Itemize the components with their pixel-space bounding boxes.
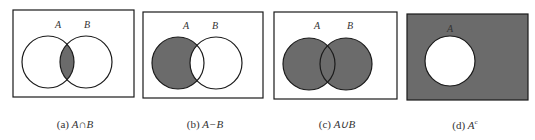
caption-b: (b) A−B <box>187 118 223 130</box>
caption-superscript: c <box>475 118 478 126</box>
label-a: A <box>446 23 454 34</box>
label-b: B <box>212 20 218 31</box>
caption-label: (d) <box>452 119 465 131</box>
panel-b-difference <box>143 12 263 98</box>
panel-a-intersection <box>13 10 134 97</box>
label-b: B <box>84 19 90 30</box>
caption-a: (a) A∩B <box>57 118 93 130</box>
label-a: A <box>182 20 190 31</box>
caption-expression: A∪B <box>334 118 355 130</box>
set-a-circle <box>425 36 475 86</box>
caption-d: (d) Ac <box>452 118 477 131</box>
label-a: A <box>54 19 62 30</box>
caption-label: (a) <box>57 118 69 130</box>
caption-c: (c) A∪B <box>319 118 355 131</box>
label-a: A <box>313 20 321 31</box>
caption-expression: A−B <box>202 118 223 130</box>
caption-label: (c) <box>319 118 331 130</box>
caption-expression: A∩B <box>72 118 93 130</box>
label-b: B <box>347 20 353 31</box>
panel-d-complement <box>407 14 528 100</box>
caption-label: (b) <box>187 118 200 130</box>
panel-c-union <box>274 12 397 99</box>
